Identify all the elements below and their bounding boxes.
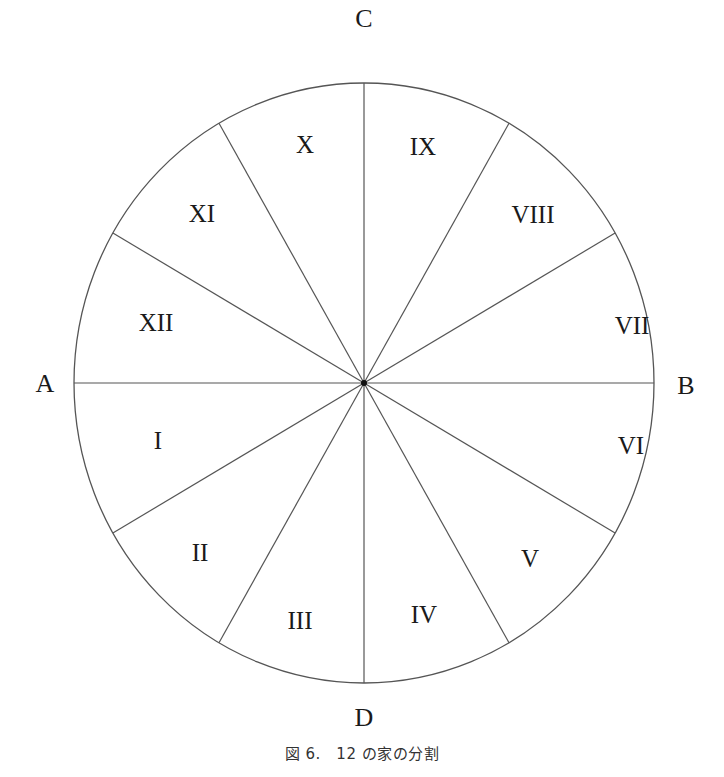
house-label-9: IX [410, 133, 436, 160]
axis-label-left: A [36, 369, 55, 398]
axis-label-bottom: D [355, 703, 374, 732]
house-label-10: X [296, 131, 314, 158]
twelve-houses-diagram: C A B D I II III IV V VI VII VIII IX X X… [0, 0, 724, 777]
house-divider-line [219, 123, 364, 383]
house-divider-line [113, 383, 364, 533]
house-label-12: XII [139, 309, 174, 336]
axis-label-top: C [355, 4, 372, 33]
house-label-4: IV [411, 601, 437, 628]
house-divider-line [113, 233, 364, 383]
axis-label-right: B [677, 371, 694, 400]
house-divider-line [364, 123, 509, 383]
house-divider-line [364, 233, 615, 383]
house-label-6: VI [618, 432, 644, 459]
house-label-11: XI [189, 200, 215, 227]
house-divider-line [364, 383, 615, 533]
house-label-8: VIII [511, 201, 554, 228]
house-label-3: III [288, 607, 313, 634]
house-label-5: V [521, 545, 539, 572]
house-label-1: I [154, 427, 162, 454]
house-divider-line [219, 383, 364, 643]
figure-caption: 図 6. 12 の家の分割 [0, 742, 724, 763]
house-label-2: II [192, 539, 209, 566]
center-point [361, 380, 367, 386]
house-label-7: VII [615, 312, 650, 339]
